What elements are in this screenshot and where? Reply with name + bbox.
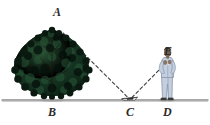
point-label-b: B <box>48 106 56 118</box>
point-label-d: D <box>163 106 172 118</box>
person-shoe-right <box>168 98 174 100</box>
point-label-a: A <box>53 6 61 18</box>
mirror <box>121 97 138 100</box>
ground-line <box>2 100 208 101</box>
sight-line-mirror-to-eye <box>132 66 163 98</box>
person-hand-right <box>168 60 172 64</box>
point-label-e: E <box>164 45 172 57</box>
person-shoe-left <box>161 98 167 100</box>
mirror-tree-height-diagram: A B C D E <box>0 0 210 125</box>
diagram-canvas <box>0 0 210 125</box>
point-label-c: C <box>126 106 134 118</box>
person-hand-left <box>163 60 167 65</box>
person-trousers <box>162 76 173 98</box>
tree <box>10 25 94 102</box>
